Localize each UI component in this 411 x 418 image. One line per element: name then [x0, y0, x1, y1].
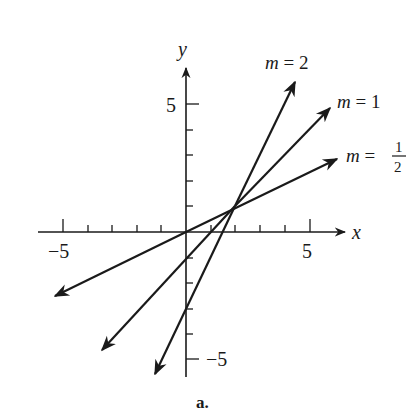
x-tick-label-neg5: −5	[48, 240, 69, 262]
label-m-2: m = 2	[265, 52, 308, 73]
figure-caption: a.	[196, 393, 209, 412]
line-m-half-lower	[55, 232, 186, 296]
slope-lines-figure: y x −5 5 5 −5 m = 2 m = 1 m = 1 2 a.	[0, 0, 411, 418]
x-axis-label: x	[351, 221, 361, 243]
line-m-half	[186, 159, 337, 232]
label-m-half-prefix: m =	[346, 145, 375, 166]
x-tick-label-5: 5	[302, 240, 312, 262]
line-m-1	[235, 108, 330, 206]
y-tick-label-5: 5	[166, 94, 176, 116]
y-tick-label-neg5: −5	[206, 348, 227, 370]
label-m-1: m = 1	[337, 91, 380, 112]
y-axis-label: y	[176, 38, 187, 61]
label-m-half-denominator: 2	[394, 159, 402, 175]
label-m-half-numerator: 1	[395, 139, 403, 155]
line-m-1-lower	[102, 206, 235, 350]
line-m-2	[235, 82, 295, 206]
